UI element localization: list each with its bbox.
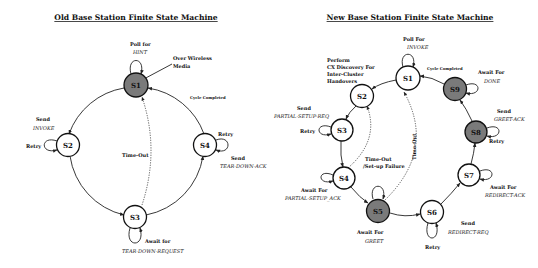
- state-s1: S1: [396, 66, 420, 90]
- state-s3: S3: [331, 119, 353, 141]
- label-poll-for: Poll for: [130, 41, 151, 47]
- state-s6: S6: [421, 201, 444, 224]
- state-s3: S3: [124, 206, 147, 229]
- state-s7: S7: [458, 164, 480, 186]
- label-inter-cluster: Inter-Cluster: [327, 71, 364, 77]
- edge-s7-s8: [471, 143, 475, 164]
- label-time-out: Time-Out: [122, 152, 149, 158]
- edge-s1-s2: [69, 88, 124, 134]
- label-poll-for: Poll For: [403, 36, 425, 42]
- label-retry-s6: Retry: [425, 244, 441, 251]
- loop-s2: [44, 140, 57, 151]
- label-time-out-vertical: Time-Out: [411, 133, 417, 160]
- edge-s1-s2: [372, 80, 396, 89]
- label-await-greet: Await For: [356, 229, 384, 235]
- loop-s7: [480, 170, 492, 180]
- svg-text:S3: S3: [337, 126, 347, 135]
- state-s4: S4: [333, 167, 355, 189]
- edge-s2-s3: [346, 106, 356, 119]
- label-retry-s2: Retry: [26, 143, 42, 150]
- loop-s1: [130, 61, 142, 75]
- label-await-redirect: Await For: [489, 184, 517, 190]
- loop-s5: [372, 186, 384, 199]
- old-fsm-title: Old Base Station Finite State Machine: [54, 13, 218, 22]
- svg-text:S1: S1: [131, 81, 141, 90]
- old-fsm-panel: Old Base Station Finite State Machine S1…: [26, 13, 267, 254]
- svg-text:S4: S4: [339, 174, 349, 183]
- loop-s3: [129, 228, 141, 243]
- loop-s6: [427, 223, 437, 238]
- edge-s3-s4: [146, 156, 203, 215]
- label-invoke: INVOKE: [406, 44, 429, 50]
- label-await-for: Await for: [144, 238, 171, 244]
- label-send-s4: Send: [231, 155, 245, 161]
- edge-s6-s7: [441, 183, 460, 204]
- edge-timeout-s3-s1: [142, 97, 151, 205]
- fsm-diagram-canvas: Old Base Station Finite State Machine S1…: [0, 0, 538, 268]
- svg-text:S3: S3: [130, 213, 140, 222]
- loop-s4: [216, 139, 228, 151]
- label-retry-s3: Retry: [300, 128, 316, 135]
- label-redirect-req: REDIRECT-REQ: [447, 229, 489, 235]
- label-hint: HINT: [132, 49, 148, 55]
- label-send: Send: [36, 116, 50, 122]
- label-media: Media: [173, 63, 191, 69]
- label-teardown-ack: TEAR-DOWN-ACK: [220, 163, 267, 169]
- label-done: DONE: [483, 78, 500, 84]
- label-retry-s8: Retry: [489, 138, 505, 145]
- label-greet: GREET: [365, 238, 384, 244]
- edge-s4-s5: [351, 187, 368, 203]
- edge-s2-s3: [70, 156, 124, 215]
- edge-s3-s4: [341, 141, 343, 167]
- svg-text:S6: S6: [427, 208, 437, 217]
- state-s4: S4: [194, 134, 217, 157]
- pointer-over-wireless: [142, 64, 172, 80]
- svg-text:S8: S8: [471, 128, 481, 137]
- state-s2: S2: [351, 85, 374, 108]
- svg-text:S2: S2: [357, 92, 367, 101]
- svg-text:S7: S7: [464, 171, 474, 180]
- svg-text:S5: S5: [373, 207, 383, 216]
- label-over-wireless: Over Wireless: [173, 55, 212, 61]
- new-fsm-panel: New Base Station Finite State Machine S1…: [273, 13, 525, 251]
- label-cycle-completed: Cycle Completed: [427, 66, 463, 71]
- state-s2: S2: [57, 134, 80, 157]
- svg-text:S1: S1: [403, 74, 413, 83]
- label-await-done: Await For: [477, 69, 505, 75]
- loop-s4: [321, 173, 333, 182]
- label-partial-setup-req: PARTIAL-SETUP-REQ: [273, 113, 329, 119]
- state-s8: S8: [465, 121, 487, 143]
- label-send-redirect: Send: [461, 220, 475, 226]
- loop-s8: [487, 127, 499, 137]
- label-invoke: INVOKE: [32, 125, 55, 131]
- edge-s9-s1: [420, 76, 444, 84]
- svg-text:S9: S9: [450, 85, 460, 94]
- label-retry-s4: Retry: [218, 131, 234, 138]
- label-redirect-ack: REDIRECT-ACK: [484, 192, 525, 198]
- loop-s1: [402, 54, 414, 67]
- edge-s5-s6: [390, 213, 420, 216]
- svg-text:S4: S4: [200, 141, 210, 150]
- loop-s9: [466, 84, 478, 94]
- label-await-partial: Await For: [300, 187, 328, 193]
- state-s1: S1: [124, 73, 148, 97]
- label-setup-failure: /Set-up Failure: [363, 163, 405, 170]
- loop-s3: [319, 126, 331, 135]
- state-s9: S9: [444, 78, 467, 101]
- label-greet-ack: GREET-ACK: [494, 116, 525, 122]
- label-send-partial: Send: [297, 105, 311, 111]
- label-timeout-setup: Time-Out: [365, 156, 392, 162]
- edge-s8-s9: [460, 100, 472, 121]
- label-cycle-completed: Cycle Completed: [190, 95, 226, 100]
- svg-text:S2: S2: [63, 141, 73, 150]
- label-teardown-request: TEAR-DOWN-REQUEST: [122, 248, 184, 254]
- new-fsm-title: New Base Station Finite State Machine: [327, 13, 494, 22]
- state-s5: S5: [367, 200, 390, 223]
- label-send-greet-ack: Send: [497, 108, 511, 114]
- label-perform: Perform: [327, 57, 351, 63]
- label-partial-setup-ack: PARTIAL-SETUP_ACK: [284, 195, 341, 202]
- label-cx-discovery: CX Discovery For: [327, 64, 375, 71]
- label-handovers: Handovers: [327, 78, 357, 84]
